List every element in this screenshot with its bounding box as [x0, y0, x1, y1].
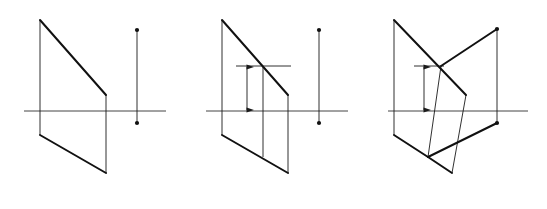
- thick-line-a-0: [40, 20, 106, 95]
- panel-a: [24, 20, 166, 173]
- point-marker-b-c: [317, 121, 321, 125]
- projection-diagram-canvas: [0, 0, 547, 209]
- thick-line-a-1: [40, 135, 106, 173]
- point-marker-c-c: [495, 121, 499, 125]
- thick-line-c-4: [428, 123, 497, 157]
- panel-b: [206, 20, 348, 173]
- engineering-drawing-figure: [0, 0, 547, 209]
- point-marker-c-cprime: [495, 27, 499, 31]
- thick-line-c-2: [394, 135, 428, 157]
- point-marker-a-cprime: [135, 28, 139, 32]
- thick-line-b-1: [222, 135, 288, 173]
- thick-line-b-0: [222, 20, 288, 95]
- thin-line-c-1: [452, 95, 466, 173]
- panel-c: [388, 20, 528, 173]
- panels-group: [24, 20, 528, 173]
- point-marker-a-c: [135, 121, 139, 125]
- thick-line-c-3: [428, 157, 452, 173]
- point-marker-b-cprime: [317, 28, 321, 32]
- thick-line-c-1: [441, 29, 497, 66]
